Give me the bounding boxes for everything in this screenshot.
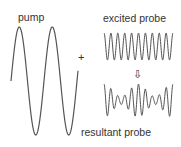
pump-wave [11, 27, 78, 135]
plus-sign: + [78, 52, 84, 63]
excited-probe-wave [104, 33, 173, 60]
down-arrow-icon: ⇩ [133, 69, 142, 80]
excited-probe-label: excited probe [103, 13, 166, 24]
pump-label: pump [18, 12, 44, 23]
resultant-probe-wave [104, 84, 173, 116]
resultant-probe-label: resultant probe [81, 127, 151, 138]
